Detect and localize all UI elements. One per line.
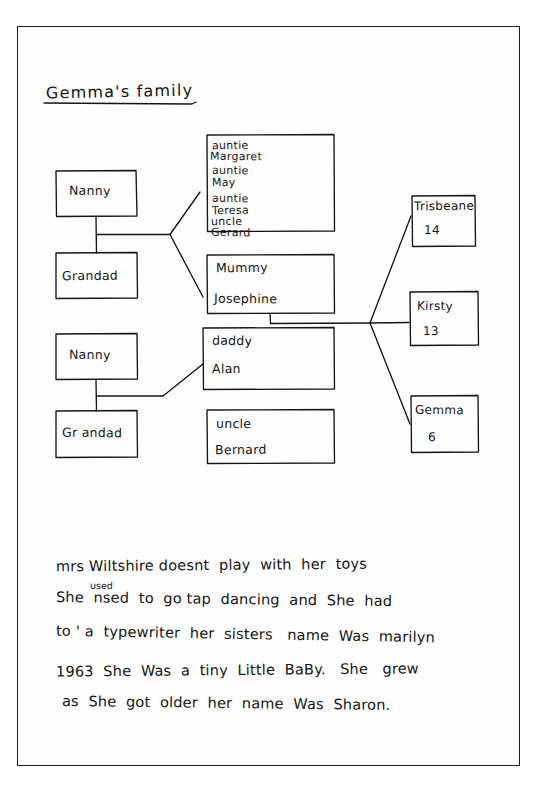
aunts-uncles-line-2: Margaret [210, 150, 262, 164]
trisbeane-name-label: Trisbeane [414, 200, 474, 213]
mummy-name-label: Josephine [214, 292, 277, 306]
aunts-uncles-line-8: Gerard [211, 226, 251, 240]
grandad-1-label: Grandad [62, 269, 118, 283]
daddy-relation-label: daddy [212, 334, 253, 348]
paragraph-line-4: 1963 She Was a tiny Little BaBy. She gre… [56, 660, 419, 679]
gemma-name-label: Gemma [415, 404, 464, 417]
grandad-2-label: Gr andad [62, 426, 122, 440]
kirsty-age-label: 13 [423, 325, 439, 338]
aunts-uncles-line-4: May [212, 176, 236, 190]
scanned-page: Gemma's family Nanny Grandad Nanny Gr an… [0, 0, 537, 794]
trisbeane-age-label: 14 [424, 224, 440, 237]
nanny-2-label: Nanny [69, 348, 111, 362]
gemma-age-label: 6 [428, 431, 436, 444]
nanny-1-label: Nanny [69, 184, 111, 198]
paragraph-inserted-correction: used [90, 580, 113, 591]
daddy-name-label: Alan [212, 362, 241, 375]
paper-frame-border [17, 26, 520, 766]
uncle-bernard-relation-label: uncle [216, 417, 252, 431]
mummy-relation-label: Mummy [216, 261, 268, 275]
kirsty-name-label: Kirsty [417, 300, 453, 313]
uncle-bernard-name-label: Bernard [215, 443, 267, 457]
paragraph-line-1: mrs Wiltshire doesnt play with her toys [56, 556, 367, 575]
page-title: Gemma's family [46, 82, 194, 102]
